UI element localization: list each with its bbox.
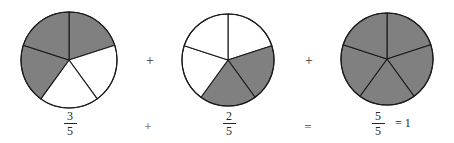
fraction-five-fifths-result: 5 5 = 1 xyxy=(368,110,448,137)
top-operator-plus-1: + xyxy=(142,54,158,68)
fraction-denominator: 5 xyxy=(212,125,246,137)
pie-two-fifths-svg xyxy=(180,12,276,108)
fraction-three-fifths: 3 5 xyxy=(53,110,87,137)
fraction-numerator: 2 xyxy=(212,110,246,122)
equation-operator-plus: + xyxy=(140,120,156,133)
pie-chart-five-fifths xyxy=(339,11,435,107)
result-equals-one: = 1 xyxy=(395,116,411,131)
pie-chart-three-fifths xyxy=(19,10,119,110)
fraction-pie-figure: + + 3 5 + 2 5 = 5 5 = 1 xyxy=(0,0,454,143)
fraction-denominator: 5 xyxy=(368,125,388,137)
fraction-numerator: 3 xyxy=(53,110,87,122)
top-operator-plus-2: + xyxy=(301,54,317,68)
pie-five-fifths-svg xyxy=(339,11,435,107)
fraction-denominator: 5 xyxy=(53,125,87,137)
pie-chart-two-fifths xyxy=(180,12,276,108)
equation-row: 3 5 + 2 5 = 5 5 = 1 xyxy=(0,108,454,143)
fraction-five-fifths: 5 5 xyxy=(368,110,388,137)
equation-operator-equals: = xyxy=(300,120,316,133)
fraction-two-fifths: 2 5 xyxy=(212,110,246,137)
pie-three-fifths-svg xyxy=(19,10,119,110)
fraction-numerator: 5 xyxy=(368,110,388,122)
